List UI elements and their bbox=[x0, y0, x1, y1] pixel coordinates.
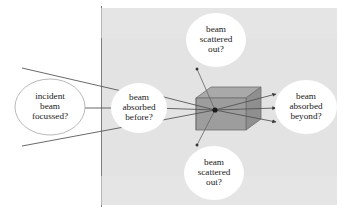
scattering-point-marker bbox=[212, 107, 217, 112]
node-bubble-incident-beam-focussed bbox=[15, 79, 85, 135]
beam-attenuation-diagram bbox=[0, 0, 347, 212]
node-bubble-beam-scattered-out-top bbox=[186, 13, 246, 67]
figure-root: incident beam focussed? beam absorbed be… bbox=[0, 0, 347, 212]
node-bubble-beam-absorbed-beyond bbox=[275, 80, 337, 134]
node-bubble-beam-absorbed-before bbox=[111, 83, 167, 133]
node-bubble-beam-scattered-out-bottom bbox=[184, 146, 244, 200]
slab-front-face bbox=[196, 98, 246, 130]
